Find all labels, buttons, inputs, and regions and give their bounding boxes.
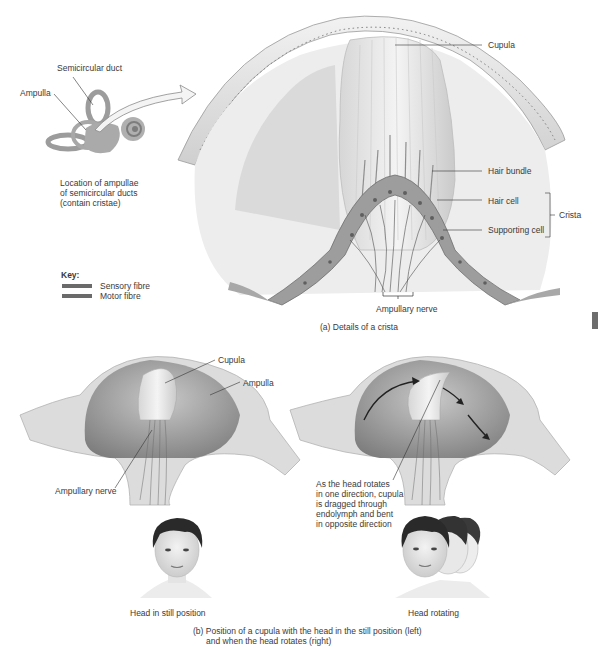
label-ampullary-nerve-b: Ampullary nerve	[55, 486, 116, 496]
crista-detail	[178, 16, 565, 305]
panel-b-caption: (b) Position of a cupula with the head i…	[193, 626, 422, 646]
rotation-annotation: As the head rotates in one direction, cu…	[316, 479, 403, 529]
label-ampulla-b: Ampulla	[243, 378, 274, 388]
label-ampulla-inset: Ampulla	[20, 88, 51, 98]
head-rotating-illustration	[395, 516, 490, 598]
legend-sensory-fibre: Sensory fibre	[100, 281, 150, 291]
label-cupula-b: Cupula	[218, 355, 245, 365]
sensory-fibre-swatch	[62, 284, 92, 288]
label-ampullary-nerve-a: Ampullary nerve	[376, 304, 437, 314]
label-supporting-cell: Supporting cell	[488, 225, 544, 235]
head-still-illustration	[140, 518, 212, 598]
inner-ear-inset	[48, 77, 196, 153]
page-edge-tab	[592, 312, 598, 329]
caption-head-rotating: Head rotating	[408, 608, 459, 618]
label-semicircular-duct: Semicircular duct	[57, 63, 122, 73]
inset-caption: Location of ampullae of semicircular duc…	[60, 178, 138, 208]
caption-head-still: Head in still position	[130, 608, 206, 618]
motor-fibre-swatch	[62, 294, 92, 298]
label-cupula-a: Cupula	[488, 40, 515, 50]
label-hair-bundle: Hair bundle	[488, 166, 531, 176]
label-hair-cell: Hair cell	[488, 196, 519, 206]
anatomy-illustration	[0, 0, 598, 649]
legend-motor-fibre: Motor fibre	[100, 291, 141, 301]
label-crista: Crista	[559, 210, 581, 220]
legend-title: Key:	[61, 270, 79, 280]
panel-a-caption: (a) Details of a crista	[320, 322, 398, 332]
